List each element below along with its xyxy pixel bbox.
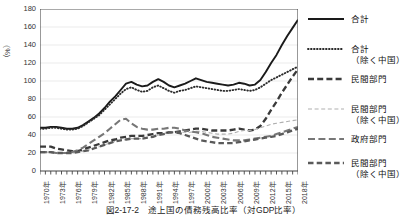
x-axis-tick-label: 2006年 [237,181,244,204]
legend-label: 民間部門 [351,74,387,85]
y-axis-tick-label: 160 [12,23,36,31]
x-axis-tick-label: 1985年 [124,181,131,204]
x-axis-tick-label: 1979年 [91,181,98,204]
x-axis-tick-label: 2009年 [253,181,260,204]
legend-item[interactable]: 民間部門（除く中国） [306,104,405,125]
x-axis-tick-label: 1982年 [108,181,115,204]
x-axis-tick-label: 2000年 [204,181,211,204]
legend-item[interactable]: 政府部門 [306,134,387,145]
y-axis-tick-label: 20 [12,149,36,157]
legend-label: 民間部門（除く中国） [351,104,405,125]
series-line [40,67,298,130]
x-axis-tick-label: 1976年 [75,181,82,204]
legend-item[interactable]: 民間部門（除く中国） [306,158,405,179]
y-axis-tick-label: 120 [12,59,36,67]
legend-item[interactable]: 合計（除く中国） [306,44,405,65]
x-axis-tick-label: 1970年 [43,181,50,204]
y-axis-ticks: 020406080100120140160180 [11,0,36,180]
legend-line-dashed-gray-icon [306,134,346,144]
chart-legend: 合計合計（除く中国）民間部門民間部門（除く中国）政府部門民間部門（除く中国） [306,6,406,176]
legend-line-dashed-thin-icon [306,104,346,114]
figure-container: （%） 020406080100120140160180 1970年1973年1… [0,0,407,222]
y-axis-tick-label: 0 [12,167,36,175]
figure-caption: 図2-17-2 途上国の債務残高比率（対GDP比率） [0,203,407,215]
series-line [40,119,298,153]
y-axis-tick-label: 60 [12,113,36,121]
legend-label: 合計 [351,14,369,25]
x-axis-tick-label: 1973年 [59,181,66,204]
x-axis-tick-label: 1988年 [140,181,147,204]
legend-line-solid-icon [306,14,346,24]
legend-label: 政府部門 [351,134,387,145]
x-axis-tick-label: 2003年 [220,181,227,204]
x-axis-tick-label: 2018年 [301,181,308,204]
series-line [40,120,298,153]
chart-plot-area [40,9,298,171]
x-axis-tick-label: 2012年 [269,181,276,204]
series-line [40,20,298,129]
x-axis-tick-label: 1991年 [156,181,163,204]
x-axis-tick-label: 1994年 [172,181,179,204]
y-axis-tick-label: 40 [12,131,36,139]
legend-line-dashed-thick-icon [306,74,346,84]
legend-line-dotted-icon [306,44,346,54]
legend-label: 民間部門（除く中国） [351,158,405,179]
y-axis-tick-label: 140 [12,41,36,49]
y-axis-tick-label: 80 [12,95,36,103]
y-axis-tick-label: 100 [12,77,36,85]
chart-svg [40,9,298,176]
y-axis-tick-label: 180 [12,5,36,13]
legend-line-dashed-medium-icon [306,158,346,168]
legend-label: 合計（除く中国） [351,44,405,65]
legend-item[interactable]: 合計 [306,14,369,25]
x-axis-tick-label: 1997年 [188,181,195,204]
legend-item[interactable]: 民間部門 [306,74,387,85]
series-line [40,129,298,153]
x-axis-tick-label: 2015年 [285,181,292,204]
